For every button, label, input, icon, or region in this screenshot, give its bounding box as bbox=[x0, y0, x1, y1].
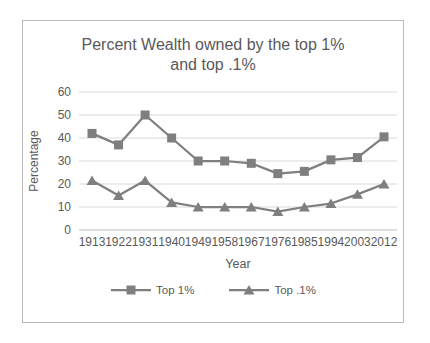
svg-text:2003: 2003 bbox=[344, 235, 371, 249]
screenshot-root: Percent Wealth owned by the top 1% and t… bbox=[0, 0, 430, 343]
svg-text:1976: 1976 bbox=[264, 235, 291, 249]
svg-text:1994: 1994 bbox=[318, 235, 345, 249]
svg-text:1967: 1967 bbox=[238, 235, 265, 249]
legend-marker-square-icon bbox=[110, 284, 152, 296]
legend-label-top-1pct: Top 1% bbox=[156, 284, 194, 296]
svg-text:0: 0 bbox=[64, 223, 71, 237]
svg-text:10: 10 bbox=[58, 200, 72, 214]
svg-text:1922: 1922 bbox=[105, 235, 132, 249]
chart-frame: Percent Wealth owned by the top 1% and t… bbox=[22, 20, 404, 323]
svg-text:Year: Year bbox=[225, 257, 250, 271]
svg-text:1985: 1985 bbox=[291, 235, 318, 249]
chart-legend: Top 1% Top .1% bbox=[23, 284, 403, 296]
svg-text:1913: 1913 bbox=[79, 235, 106, 249]
chart-plot-area: 0102030405060Percentage19131922193119401… bbox=[23, 80, 403, 282]
svg-text:40: 40 bbox=[58, 131, 72, 145]
svg-text:1931: 1931 bbox=[132, 235, 159, 249]
chart-title: Percent Wealth owned by the top 1% and t… bbox=[75, 35, 351, 76]
legend-item-top-01pct: Top .1% bbox=[228, 284, 316, 296]
svg-text:1940: 1940 bbox=[158, 235, 185, 249]
svg-text:1949: 1949 bbox=[185, 235, 212, 249]
svg-text:2012: 2012 bbox=[371, 235, 398, 249]
legend-item-top-1pct: Top 1% bbox=[110, 284, 194, 296]
svg-text:50: 50 bbox=[58, 108, 72, 122]
svg-text:Percentage: Percentage bbox=[27, 130, 41, 192]
svg-text:30: 30 bbox=[58, 154, 72, 168]
svg-text:20: 20 bbox=[58, 177, 72, 191]
svg-text:1958: 1958 bbox=[211, 235, 238, 249]
legend-label-top-01pct: Top .1% bbox=[274, 284, 316, 296]
legend-marker-triangle-icon bbox=[228, 284, 270, 296]
svg-text:60: 60 bbox=[58, 85, 72, 99]
